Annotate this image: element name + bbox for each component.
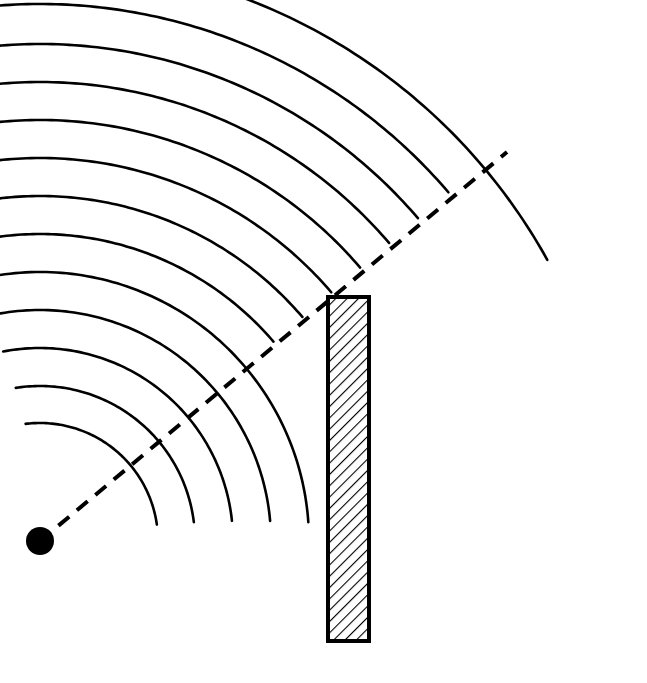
point-source-dot — [26, 527, 54, 555]
figure-canvas — [0, 0, 647, 683]
figure-background — [0, 0, 647, 683]
barrier-hatching — [328, 297, 369, 641]
diffraction-figure — [0, 0, 647, 683]
barrier-group — [326, 295, 371, 643]
